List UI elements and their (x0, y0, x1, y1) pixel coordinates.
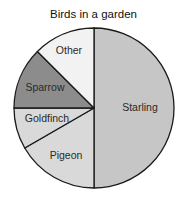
slice-label-other: Other (56, 44, 83, 56)
slice-label-pigeon: Pigeon (50, 149, 83, 161)
slice-label-starling: Starling (122, 101, 158, 113)
pie-chart: Starling Pigeon Goldfinch Sparrow Other (0, 0, 187, 201)
slice-label-sparrow: Sparrow (25, 81, 65, 93)
slice-label-goldfinch: Goldfinch (25, 112, 70, 124)
